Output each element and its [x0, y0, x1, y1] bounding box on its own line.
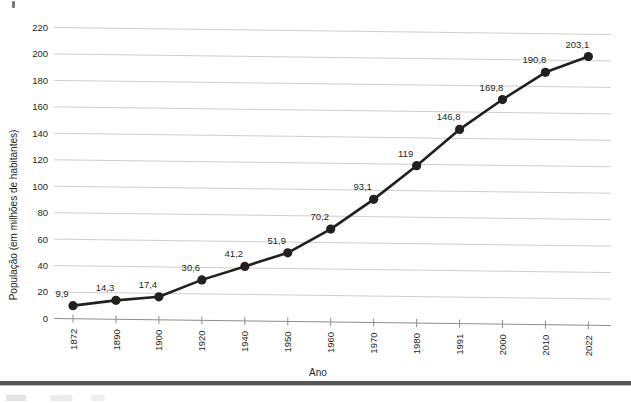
- y-tick-label: 60: [37, 234, 48, 245]
- x-axis-title: Ano: [309, 367, 327, 378]
- data-point-label: 119: [398, 148, 413, 159]
- data-point-marker: [197, 275, 206, 284]
- x-tick-label: 1960: [325, 332, 336, 353]
- y-axis-title: População (em milhões de habitantes): [8, 130, 19, 301]
- y-tick-label: 120: [32, 154, 48, 165]
- x-tick-label: 1970: [368, 333, 379, 354]
- data-point-marker: [584, 52, 593, 61]
- y-axis-tick-labels: 020406080100120140160180200220: [32, 22, 48, 324]
- data-point-marker: [498, 95, 507, 104]
- gridline-60: [54, 239, 611, 246]
- data-point-marker: [541, 68, 550, 77]
- x-tick-label: 1991: [454, 334, 465, 355]
- population-series-line: [73, 57, 588, 306]
- x-tick-label: 2000: [497, 334, 508, 355]
- data-point-label: 51,9: [268, 235, 287, 246]
- clipped-caption-text: [6, 395, 276, 401]
- y-tick-label: 160: [32, 101, 48, 112]
- x-axis-tick-labels: 1872189019001920194019501960197019801991…: [68, 329, 594, 357]
- data-point-label: 17,4: [139, 279, 158, 290]
- data-point-label: 9,9: [55, 288, 68, 299]
- x-tick-label: 1872: [68, 329, 79, 350]
- gridline-160: [54, 107, 611, 114]
- x-tick-label: 1920: [196, 330, 207, 351]
- data-point-label: 70,2: [310, 211, 329, 222]
- x-tick-label: 2022: [583, 335, 594, 356]
- y-tick-label: 20: [37, 286, 48, 297]
- y-tick-label: 180: [32, 75, 48, 86]
- x-tick-label: 1980: [411, 333, 422, 354]
- gridline-140: [54, 133, 611, 140]
- data-point-label: 41,2: [225, 248, 244, 259]
- data-point-marker: [240, 262, 249, 271]
- data-point-label: 93,1: [353, 181, 372, 192]
- x-tick-label: 1900: [154, 330, 165, 351]
- data-point-marker: [369, 195, 378, 204]
- gridline-220: [54, 28, 611, 35]
- x-axis-tickmarks: [73, 315, 588, 329]
- y-tick-label: 80: [37, 207, 48, 218]
- data-point-marker: [412, 161, 421, 170]
- data-point-label: 169,8: [480, 82, 504, 93]
- data-point-label: 30,6: [182, 262, 201, 273]
- gridline-120: [54, 160, 611, 167]
- x-tick-label: 1950: [282, 331, 293, 352]
- x-tick-label: 2010: [540, 335, 551, 356]
- data-point-marker: [154, 292, 163, 301]
- gridline-80: [54, 213, 611, 220]
- data-point-label: 14,3: [96, 282, 115, 293]
- data-point-marker: [455, 125, 464, 134]
- y-tick-label: 40: [37, 260, 48, 271]
- gridline-100: [54, 186, 611, 193]
- gridline-40: [54, 266, 611, 273]
- y-tick-label: 100: [32, 181, 48, 192]
- y-tick-label: 220: [32, 22, 48, 33]
- data-point-label: 203,1: [566, 39, 590, 50]
- gridlines-group: [54, 28, 611, 326]
- y-tick-label: 140: [32, 128, 48, 139]
- x-tick-label: 1890: [111, 329, 122, 350]
- y-tick-label: 200: [32, 48, 48, 59]
- data-point-value-labels: 9,914,317,430,641,251,970,293,1119146,81…: [55, 39, 589, 299]
- y-tick-label: 0: [43, 313, 48, 324]
- data-point-marker: [68, 301, 77, 310]
- data-point-marker: [326, 225, 335, 234]
- figure-container: 020406080100120140160180200220 187218901…: [0, 0, 631, 403]
- x-axis-baseline: [54, 319, 611, 326]
- data-point-label: 146,8: [437, 111, 461, 122]
- data-point-marker: [283, 248, 292, 257]
- page-divider-rule: [0, 381, 631, 385]
- population-line-chart: 020406080100120140160180200220 187218901…: [0, 0, 631, 403]
- data-point-marker: [111, 296, 120, 305]
- x-tick-label: 1940: [239, 331, 250, 352]
- data-point-label: 190,8: [523, 54, 547, 65]
